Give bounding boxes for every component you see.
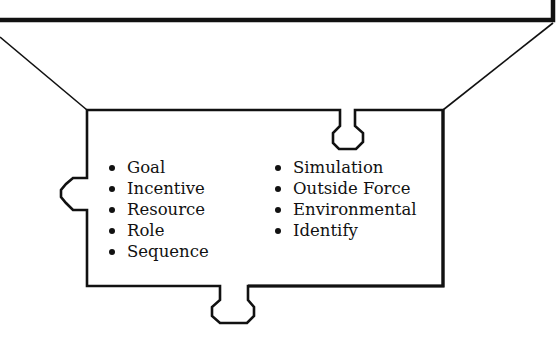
list-item: Sequence — [107, 241, 209, 262]
bullet-icon — [275, 228, 281, 234]
list-item: Role — [107, 220, 209, 241]
top-box-outline — [0, 0, 553, 20]
list-item: Resource — [107, 199, 209, 220]
right-bullet-list: Simulation Outside Force Environmental I… — [273, 157, 417, 241]
list-item: Incentive — [107, 178, 209, 199]
right-connector-line — [443, 23, 553, 110]
list-item-label: Incentive — [127, 179, 205, 198]
list-item: Goal — [107, 157, 209, 178]
list-item-label: Identify — [293, 221, 358, 240]
list-item-label: Resource — [127, 200, 205, 219]
list-item: Outside Force — [273, 178, 417, 199]
list-item-label: Outside Force — [293, 179, 410, 198]
left-bullet-list: Goal Incentive Resource Role Sequence — [107, 157, 209, 262]
list-item-label: Sequence — [127, 242, 209, 261]
list-item-label: Goal — [127, 158, 165, 177]
diagram-canvas: Goal Incentive Resource Role Sequence Si… — [0, 0, 560, 338]
list-item: Environmental — [273, 199, 417, 220]
bullet-icon — [109, 165, 115, 171]
bullet-icon — [275, 186, 281, 192]
list-item: Identify — [273, 220, 417, 241]
bullet-icon — [109, 228, 115, 234]
list-item: Simulation — [273, 157, 417, 178]
bullet-icon — [109, 186, 115, 192]
left-connector-line — [0, 37, 87, 110]
bullet-icon — [109, 207, 115, 213]
list-item-label: Role — [127, 221, 164, 240]
bullet-icon — [275, 207, 281, 213]
bullet-icon — [109, 249, 115, 255]
list-item-label: Environmental — [293, 200, 417, 219]
bullet-icon — [275, 165, 281, 171]
list-item-label: Simulation — [293, 158, 383, 177]
